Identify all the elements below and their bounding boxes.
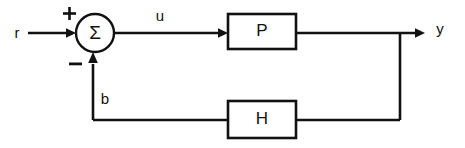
label-control-u: u — [156, 7, 164, 24]
label-reference-r: r — [15, 24, 20, 41]
label-plant-p: P — [256, 21, 267, 40]
label-feedback-h: H — [256, 109, 268, 128]
summing-minus-sign — [69, 63, 82, 66]
summing-plus-sign — [63, 7, 76, 20]
arrowhead-summing-minus-input — [88, 52, 98, 63]
label-output-y: y — [436, 20, 444, 37]
block-diagram-canvas: r Σ u P H b y — [0, 0, 465, 148]
block-diagram-graphic: r Σ u P H b y — [0, 0, 465, 148]
label-summing-sigma: Σ — [89, 22, 101, 43]
arrowhead-output-y — [415, 28, 425, 38]
arrowhead-reference-input — [66, 28, 76, 38]
arrowhead-plant-input — [218, 28, 228, 38]
label-feedback-b: b — [101, 90, 109, 107]
